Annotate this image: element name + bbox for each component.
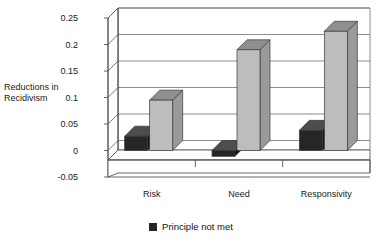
recidivism-bar-chart: Reductions in Recidivism 0.250.20.150.10…: [0, 0, 382, 242]
x-axis-tick-label-need: Need: [189, 189, 289, 199]
chart-legend: Principle not met: [0, 221, 382, 232]
x-axis-tick-label-risk: Risk: [102, 189, 202, 199]
chart-plot-area: [0, 0, 382, 242]
plot-floor-front: [108, 160, 370, 177]
bar-light-need: [237, 40, 270, 151]
legend-swatch-icon: [149, 223, 157, 231]
legend-label: Principle not met: [162, 221, 233, 232]
bar-light-responsivity: [324, 21, 357, 150]
x-axis-tick-label-responsivity: Responsivity: [276, 189, 376, 199]
plot-left-wall: [108, 8, 118, 160]
bar-light-risk: [150, 90, 183, 150]
